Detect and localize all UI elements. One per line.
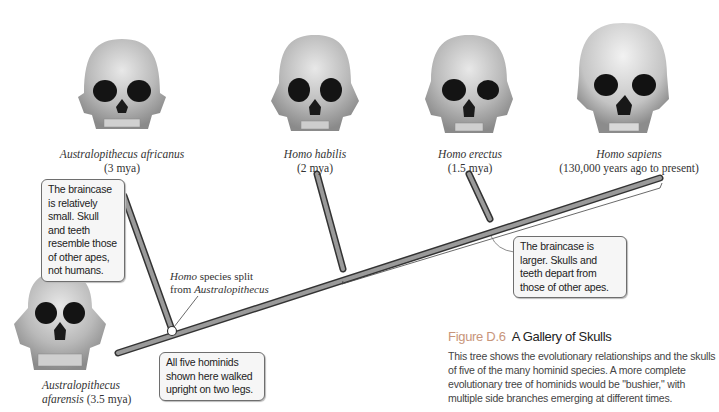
skull-habilis-image: [271, 35, 359, 131]
species-age: (3 mya): [104, 162, 140, 174]
callout-australopithecus: The braincase is relatively small. Skull…: [41, 179, 125, 282]
branch-erectus: [469, 174, 490, 219]
species-name-epithet: afarensis: [42, 393, 84, 405]
species-name: Homo sapiens: [596, 148, 662, 160]
split-leader-line: [174, 296, 198, 327]
species-label-habilis: Homo habilis (2 mya): [255, 147, 375, 175]
branch-africanus: [124, 196, 172, 330]
species-label-sapiens: Homo sapiens (130,000 years ago to prese…: [540, 147, 718, 175]
split-label: Homo species split from Australopithecus: [170, 270, 310, 296]
species-name: Homo habilis: [284, 148, 346, 160]
species-age: (130,000 years ago to present): [559, 162, 699, 174]
skull-erectus-image: [425, 35, 513, 133]
figure-title: Figure D.6A Gallery of Skulls: [448, 329, 612, 344]
species-label-afarensis: Australopithecusafarensis (3.5 mya): [42, 378, 162, 406]
skull-africanus-image: [78, 39, 166, 129]
callout-upright: All five hominids shown here walked upri…: [159, 352, 265, 401]
species-name: Homo erectus: [438, 148, 502, 160]
callout-homo: The braincase is larger. Skulls and teet…: [513, 236, 627, 298]
figure-caption: This tree shows the evolutionary relatio…: [448, 349, 718, 405]
skull-afarensis-image: [14, 272, 106, 370]
split-genus2: Australopithecus: [194, 283, 269, 295]
species-age: (3.5 mya): [84, 393, 132, 405]
species-name: Australopithecus africanus: [60, 148, 184, 160]
figure-title-text: A Gallery of Skulls: [512, 329, 612, 344]
species-label-africanus: Australopithecus africanus (3 mya): [52, 147, 192, 175]
skull-sapiens-image: [577, 23, 669, 133]
species-label-erectus: Homo erectus (1.5 mya): [410, 147, 530, 175]
species-age: (1.5 mya): [448, 162, 493, 174]
branch-habilis: [317, 174, 343, 269]
split-genus: Homo: [170, 270, 197, 282]
split-node: [168, 327, 177, 336]
species-name-genus: Australopithecus: [42, 379, 120, 391]
figure-number: Figure D.6: [448, 329, 506, 344]
species-age: (2 mya): [297, 162, 333, 174]
